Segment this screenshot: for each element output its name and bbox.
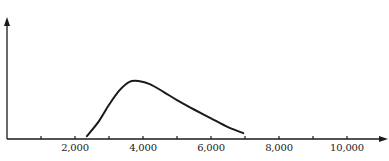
x-tick-label: 8,000: [265, 142, 293, 153]
y-axis-arrow-icon: [4, 17, 10, 26]
x-axis-arrow-icon: [379, 136, 388, 142]
y-axis: [4, 17, 10, 139]
x-tick-label: 10,000: [330, 142, 364, 153]
distribution-curve: [87, 81, 243, 136]
x-tick-label: 4,000: [129, 142, 157, 153]
chart-plot: [0, 0, 389, 161]
x-tick-label: 2,000: [61, 142, 89, 153]
x-tick-label: 6,000: [197, 142, 225, 153]
